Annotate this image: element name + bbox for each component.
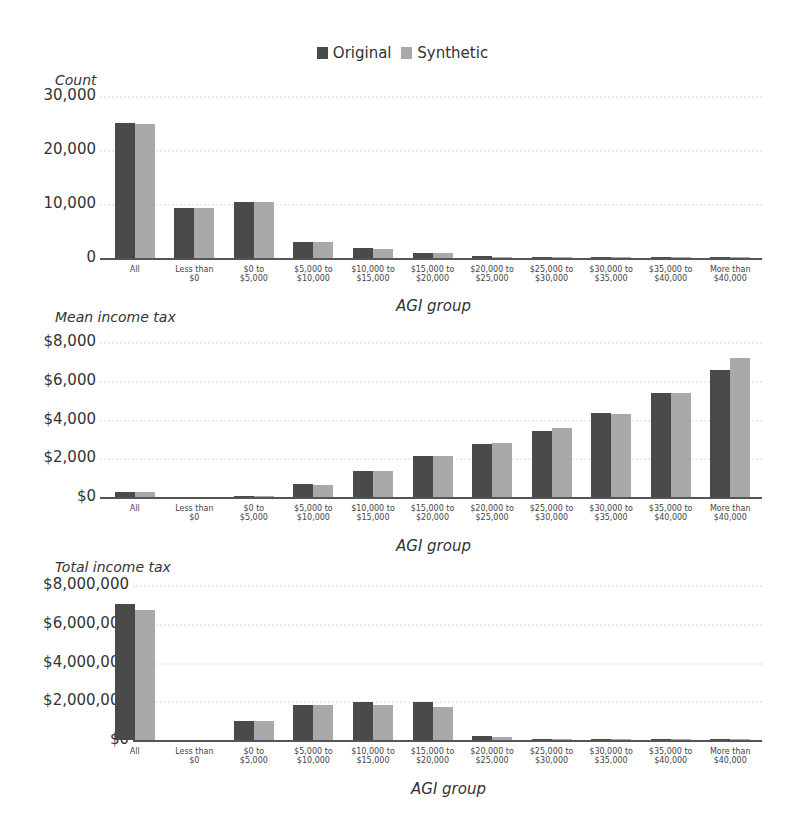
x-tick-label: $10,000 to$15,000 (343, 504, 403, 522)
x-tick-label: $25,000 to$30,000 (522, 747, 582, 765)
x-tick-label: $15,000 to$20,000 (403, 265, 463, 283)
gridline (100, 96, 762, 98)
y-tick-label: 30,000 (44, 86, 97, 104)
y-tick-label: $6,000 (44, 371, 97, 389)
x-tick-label: $20,000 to$25,000 (462, 504, 522, 522)
x-tick-label: All (105, 265, 165, 274)
bar-synthetic-20-000-to-25-000 (492, 443, 512, 497)
bar-original-more-than-40-000 (710, 370, 730, 497)
x-tick-label: All (105, 504, 165, 513)
bar-original-0-to-5-000 (234, 202, 254, 258)
bar-synthetic-5-000-to-10-000 (313, 705, 333, 740)
x-tick-label: $10,000 to$15,000 (343, 747, 403, 765)
x-axis-title: AGI group (396, 297, 471, 315)
x-tick-label: $20,000 to$25,000 (462, 265, 522, 283)
bar-original-10-000-to-15-000 (353, 248, 373, 258)
y-tick-label: $8,000,000 (43, 575, 129, 593)
bar-original-35-000-to-40-000 (651, 393, 671, 497)
bar-original-5-000-to-10-000 (293, 705, 313, 740)
bar-synthetic-0-to-5-000 (254, 721, 274, 740)
legend-label-synthetic: Synthetic (417, 44, 488, 62)
x-tick-label: $15,000 to$20,000 (403, 747, 463, 765)
x-tick-label: $35,000 to$40,000 (641, 265, 701, 283)
bar-original-less-than-0 (174, 208, 194, 258)
legend-swatch-synthetic (401, 47, 412, 59)
x-tick-label: $30,000 to$35,000 (581, 747, 641, 765)
bar-synthetic-15-000-to-20-000 (433, 707, 453, 740)
x-tick-label: $25,000 to$30,000 (522, 265, 582, 283)
bar-original-15-000-to-20-000 (413, 456, 433, 497)
bar-original-10-000-to-15-000 (353, 471, 373, 497)
y-axis-title: Total income tax (55, 559, 171, 575)
x-tick-label: $15,000 to$20,000 (403, 504, 463, 522)
bar-synthetic-more-than-40-000 (730, 358, 750, 497)
x-axis-title: AGI group (411, 780, 486, 798)
bar-synthetic-10-000-to-15-000 (373, 249, 393, 258)
x-tick-label: $30,000 to$35,000 (581, 265, 641, 283)
bar-original-10-000-to-15-000 (353, 702, 373, 740)
x-tick-label: More than$40,000 (700, 504, 760, 522)
gridline (133, 624, 762, 626)
x-tick-label: $10,000 to$15,000 (343, 265, 403, 283)
bar-synthetic-all (135, 124, 155, 258)
bar-synthetic-30-000-to-35-000 (611, 414, 631, 497)
x-tick-label: $25,000 to$30,000 (522, 504, 582, 522)
bar-synthetic-all (135, 610, 155, 740)
bar-synthetic-15-000-to-20-000 (433, 456, 453, 497)
x-tick-label: $5,000 to$10,000 (283, 747, 343, 765)
x-tick-label: Less than$0 (164, 504, 224, 522)
x-tick-label: $35,000 to$40,000 (641, 504, 701, 522)
bar-original-30-000-to-35-000 (591, 413, 611, 497)
x-tick-label: More than$40,000 (700, 747, 760, 765)
y-tick-label: $0 (77, 487, 96, 505)
y-tick-label: $4,000 (44, 410, 97, 428)
bar-original-0-to-5-000 (234, 721, 254, 740)
x-tick-label: All (105, 747, 165, 756)
gridline (133, 663, 762, 665)
chart-legend: Original Synthetic (0, 44, 804, 62)
x-tick-label: Less than$0 (164, 265, 224, 283)
bar-synthetic-10-000-to-15-000 (373, 705, 393, 740)
y-axis-title: Mean income tax (55, 309, 176, 325)
x-tick-label: $0 to$5,000 (224, 265, 284, 283)
bar-synthetic-35-000-to-40-000 (671, 393, 691, 497)
y-tick-label: $8,000 (44, 332, 97, 350)
bar-original-5-000-to-10-000 (293, 484, 313, 497)
gridline (133, 701, 762, 703)
y-tick-label: 20,000 (44, 140, 97, 158)
bar-original-all (115, 604, 135, 740)
gridline (133, 585, 762, 587)
legend-label-original: Original (333, 44, 392, 62)
x-tick-label: $5,000 to$10,000 (283, 504, 343, 522)
legend-swatch-original (317, 47, 328, 59)
x-tick-label: Less than$0 (164, 747, 224, 765)
x-tick-label: $35,000 to$40,000 (641, 747, 701, 765)
bar-original-25-000-to-30-000 (532, 431, 552, 497)
x-tick-label: $30,000 to$35,000 (581, 504, 641, 522)
bar-synthetic-less-than-0 (194, 208, 214, 258)
bar-original-all (115, 123, 135, 258)
bar-synthetic-10-000-to-15-000 (373, 471, 393, 497)
bar-synthetic-5-000-to-10-000 (313, 485, 333, 497)
bar-synthetic-25-000-to-30-000 (552, 428, 572, 497)
x-axis-line (100, 497, 762, 499)
x-tick-label: $20,000 to$25,000 (462, 747, 522, 765)
x-tick-label: $0 to$5,000 (224, 504, 284, 522)
bar-synthetic-5-000-to-10-000 (313, 242, 333, 258)
x-axis-line (100, 258, 762, 260)
y-tick-label: 10,000 (44, 194, 97, 212)
gridline (100, 204, 762, 206)
x-axis-title: AGI group (396, 537, 471, 555)
gridline (100, 342, 762, 344)
y-tick-label: $2,000 (44, 448, 97, 466)
gridline (100, 150, 762, 152)
gridline (100, 381, 762, 383)
x-tick-label: $5,000 to$10,000 (283, 265, 343, 283)
legend-item-original: Original (314, 44, 392, 62)
bar-original-20-000-to-25-000 (472, 444, 492, 497)
bar-original-15-000-to-20-000 (413, 702, 433, 740)
bar-original-5-000-to-10-000 (293, 242, 313, 258)
x-axis-line (133, 740, 762, 742)
x-tick-label: $0 to$5,000 (224, 747, 284, 765)
x-tick-label: More than$40,000 (700, 265, 760, 283)
